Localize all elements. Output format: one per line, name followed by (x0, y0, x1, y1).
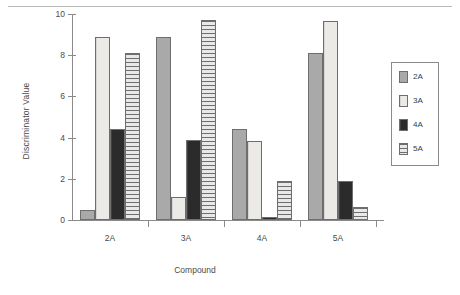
y-tick (68, 220, 76, 221)
legend-item-3A[interactable]: 3A (399, 95, 423, 107)
y-tick-label: 8 (60, 50, 65, 60)
bar-chart-figure: Discriminator Value Compound 0246810 2A3… (0, 0, 460, 295)
legend-swatch-2A (399, 71, 408, 83)
bar-3A-3A (171, 197, 186, 220)
chart-legend: 2A3A4A5A (391, 62, 439, 166)
legend-swatch-3A (399, 95, 408, 107)
x-axis-end-tick (376, 220, 377, 227)
x-axis-line (72, 220, 384, 221)
legend-label-5A: 5A (413, 145, 423, 153)
x-group-label: 2A (105, 233, 115, 243)
bar-4A-4A (262, 217, 277, 220)
x-group-separator-tick (300, 220, 301, 227)
bar-2A-5A (125, 53, 140, 220)
legend-label-2A: 2A (413, 73, 423, 81)
bar-2A-4A (110, 129, 125, 220)
x-group-separator-tick (224, 220, 225, 227)
bar-3A-5A (201, 20, 216, 220)
y-tick (68, 55, 76, 56)
legend-item-2A[interactable]: 2A (399, 71, 423, 83)
bar-5A-5A (353, 207, 368, 220)
bar-4A-5A (277, 181, 292, 220)
legend-swatch-4A (399, 119, 408, 131)
plot-area: 0246810 2A3A4A5A (72, 14, 376, 220)
y-tick-label: 0 (60, 215, 65, 225)
y-tick (68, 14, 76, 15)
legend-item-5A[interactable]: 5A (399, 143, 423, 155)
bar-2A-3A (95, 37, 110, 220)
x-group-label: 4A (257, 233, 267, 243)
bar-2A-2A (80, 210, 95, 220)
legend-swatch-5A (399, 143, 408, 155)
y-tick-label: 2 (60, 174, 65, 184)
y-tick-label: 6 (60, 91, 65, 101)
x-axis-title: Compound (0, 265, 390, 275)
bar-3A-2A (156, 37, 171, 220)
y-tick-label: 10 (56, 9, 65, 19)
y-tick (68, 96, 76, 97)
legend-label-4A: 4A (413, 121, 423, 129)
x-group-separator-tick (148, 220, 149, 227)
bar-5A-2A (308, 53, 323, 220)
y-tick-label: 4 (60, 133, 65, 143)
y-tick (68, 179, 76, 180)
y-axis-line (72, 14, 73, 220)
y-axis-title: Discriminator Value (21, 51, 31, 191)
legend-label-3A: 3A (413, 97, 423, 105)
x-group-label: 3A (181, 233, 191, 243)
y-tick (68, 138, 76, 139)
bar-4A-3A (247, 141, 262, 220)
bar-5A-4A (338, 181, 353, 220)
bar-5A-3A (323, 21, 338, 220)
x-group-label: 5A (333, 233, 343, 243)
legend-item-4A[interactable]: 4A (399, 119, 423, 131)
bar-3A-4A (186, 140, 201, 220)
bar-4A-2A (232, 129, 247, 220)
